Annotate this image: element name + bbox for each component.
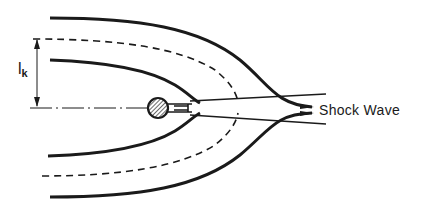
hatched-body-icon bbox=[148, 98, 168, 118]
lk-subscript: k bbox=[22, 67, 28, 79]
inner-streamline-top bbox=[50, 60, 200, 103]
wake-line-bottom bbox=[190, 115, 326, 124]
shock-wave-label: Shock Wave bbox=[319, 102, 400, 118]
shock-wave-diagram: lk Shock Wave bbox=[0, 0, 423, 210]
inner-streamline-bottom bbox=[48, 113, 200, 156]
wake-line-top bbox=[190, 94, 326, 101]
lk-arrowhead-down-icon bbox=[34, 97, 40, 107]
lk-arrowhead-up-icon bbox=[34, 39, 40, 49]
body-wake-fork bbox=[168, 104, 192, 112]
lk-label: lk bbox=[18, 60, 28, 79]
